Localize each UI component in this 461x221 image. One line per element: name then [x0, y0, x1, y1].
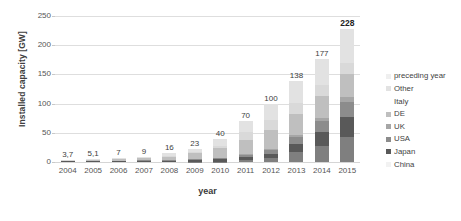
bar-segment[interactable]	[315, 146, 329, 162]
y-tick-label: 0	[47, 158, 51, 166]
x-tick-label: 2015	[338, 167, 356, 175]
x-tick-label: 2009	[186, 167, 204, 175]
bar-segment[interactable]	[315, 59, 329, 86]
bar-segment[interactable]	[315, 96, 329, 118]
y-tick-mark	[52, 162, 55, 163]
bar-value-label: 23	[190, 140, 199, 148]
legend-swatch	[386, 162, 391, 167]
bar-group[interactable]: 72006	[112, 158, 126, 162]
bar-segment[interactable]	[340, 117, 354, 137]
bar-value-label: 138	[290, 72, 303, 80]
bar-group[interactable]: 3,72004	[61, 160, 75, 162]
bar-group[interactable]: 5,12005	[86, 159, 100, 162]
bar-segment[interactable]	[264, 130, 278, 149]
legend-item[interactable]: China	[386, 158, 461, 171]
legend-label: Italy	[394, 98, 408, 106]
bar-segment[interactable]	[315, 85, 329, 96]
bar-group[interactable]: 92007	[137, 157, 151, 162]
bar-segment[interactable]	[315, 121, 329, 132]
bar-segment[interactable]	[137, 161, 151, 162]
bar-segment[interactable]	[239, 121, 253, 132]
legend-item[interactable]: Italy	[386, 95, 461, 108]
legend-item[interactable]: DE	[386, 108, 461, 121]
x-tick-label: 2008	[160, 167, 178, 175]
x-tick-label: 2011	[237, 167, 254, 175]
bar-segment[interactable]	[264, 120, 278, 130]
legend-item[interactable]: Japan	[386, 146, 461, 159]
y-tick-label: 50	[42, 129, 51, 137]
bar-segment[interactable]	[213, 148, 227, 158]
bar-value-label: 228	[340, 19, 354, 28]
y-tick-label: 100	[38, 100, 51, 108]
legend-item[interactable]: USA	[386, 133, 461, 146]
bar-segment[interactable]	[61, 161, 75, 162]
bar-group[interactable]: 702011	[239, 121, 253, 162]
bar-group[interactable]: 402010	[213, 139, 227, 162]
bar-segment[interactable]	[289, 103, 303, 114]
bar-group[interactable]: 1772014	[315, 59, 329, 162]
legend-label: USA	[394, 135, 410, 143]
bar-segment[interactable]	[289, 152, 303, 163]
y-tick-label: 200	[38, 41, 51, 49]
bar-segment[interactable]	[340, 74, 354, 97]
bar-segment[interactable]	[289, 144, 303, 152]
bar-value-label: 5,1	[88, 150, 99, 158]
bar-segment[interactable]	[340, 102, 354, 117]
legend-swatch	[386, 99, 391, 104]
legend-swatch	[386, 74, 391, 79]
grid-line	[55, 162, 360, 163]
bar-value-label: 177	[315, 50, 328, 58]
legend-swatch	[386, 86, 391, 91]
legend-label: preceding year	[394, 72, 446, 80]
y-tick-label: 150	[38, 70, 51, 78]
bar-segment[interactable]	[213, 139, 227, 146]
x-tick-label: 2013	[288, 167, 306, 175]
legend-item[interactable]: Other	[386, 83, 461, 96]
bar-value-label: 9	[142, 148, 146, 156]
bar-segment[interactable]	[315, 132, 329, 146]
bars-layer: 3,720045,1200572006920071620082320094020…	[55, 16, 360, 162]
bar-segment[interactable]	[264, 104, 278, 121]
bar-segment[interactable]	[239, 160, 253, 162]
legend-label: DE	[394, 110, 405, 118]
legend-swatch	[386, 149, 391, 154]
legend-swatch	[386, 124, 391, 129]
bar-group[interactable]: 2282015	[340, 29, 354, 162]
legend-swatch	[386, 112, 391, 117]
bar-segment[interactable]	[289, 81, 303, 103]
legend-label: Other	[394, 85, 414, 93]
legend-item[interactable]: preceding year	[386, 70, 461, 83]
chart-legend: preceding yearOtherItalyDEUKUSAJapanChin…	[386, 70, 461, 171]
x-tick-label: 2014	[313, 167, 331, 175]
bar-segment[interactable]	[340, 29, 354, 63]
legend-swatch	[386, 137, 391, 142]
bar-group[interactable]: 162008	[162, 153, 176, 162]
x-tick-label: 2006	[110, 167, 128, 175]
bar-value-label: 40	[216, 130, 225, 138]
bar-segment[interactable]	[264, 158, 278, 162]
bar-segment[interactable]	[289, 114, 303, 135]
bar-group[interactable]: 232009	[188, 149, 202, 162]
y-tick-label: 250	[38, 12, 51, 20]
bar-segment[interactable]	[289, 137, 303, 144]
y-axis-title: Installed capacity [GW]	[17, 9, 27, 149]
x-tick-label: 2007	[135, 167, 153, 175]
bar-value-label: 100	[264, 95, 277, 103]
x-tick-label: 2004	[59, 167, 77, 175]
bar-group[interactable]: 1382013	[289, 81, 303, 162]
legend-label: UK	[394, 123, 405, 131]
chart-container: Installed capacity [GW] 050100150200250 …	[0, 0, 461, 221]
bar-segment[interactable]	[86, 161, 100, 162]
x-tick-label: 2012	[262, 167, 280, 175]
bar-segment[interactable]	[239, 132, 253, 139]
bar-segment[interactable]	[340, 137, 354, 162]
plot-area: 050100150200250 3,720045,120057200692007…	[55, 16, 360, 162]
legend-item[interactable]: UK	[386, 120, 461, 133]
bar-value-label: 16	[165, 144, 174, 152]
x-tick-label: 2010	[211, 167, 229, 175]
bar-segment[interactable]	[112, 161, 126, 162]
bar-value-label: 7	[116, 149, 120, 157]
bar-group[interactable]: 1002012	[264, 104, 278, 162]
bar-segment[interactable]	[340, 63, 354, 74]
bar-segment[interactable]	[239, 140, 253, 155]
